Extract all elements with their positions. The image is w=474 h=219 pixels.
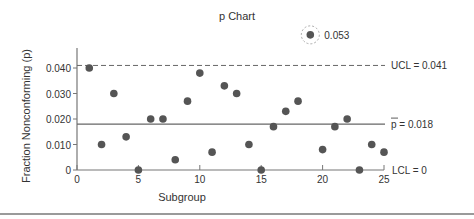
y-tick-label: 0.010 bbox=[46, 140, 71, 151]
y-axis-label: Fraction Nonconforming (p) bbox=[20, 49, 32, 183]
data-point bbox=[294, 97, 302, 105]
lcl-label: LCL = 0 bbox=[392, 165, 427, 176]
x-tick-label: 0 bbox=[74, 174, 80, 185]
data-point bbox=[135, 166, 143, 174]
data-point bbox=[356, 166, 364, 174]
data-point bbox=[319, 146, 327, 154]
data-point bbox=[343, 115, 351, 123]
bottom-divider bbox=[0, 213, 474, 215]
data-point bbox=[171, 156, 179, 164]
p-chart: p Chart 00.0100.0200.0300.0400510152025 … bbox=[0, 0, 474, 219]
axes: 00.0100.0200.0300.0400510152025 bbox=[46, 48, 390, 185]
x-tick-label: 5 bbox=[136, 174, 142, 185]
data-point bbox=[196, 69, 204, 77]
data-point bbox=[257, 166, 265, 174]
data-point bbox=[245, 141, 253, 149]
data-point bbox=[85, 64, 93, 72]
data-point bbox=[270, 123, 278, 131]
data-point bbox=[233, 90, 241, 98]
data-point bbox=[98, 141, 106, 149]
data-point bbox=[331, 123, 339, 131]
y-tick-label: 0.030 bbox=[46, 89, 71, 100]
ucl-label: UCL = 0.041 bbox=[391, 60, 447, 71]
data-point bbox=[221, 82, 229, 90]
x-tick-label: 20 bbox=[317, 174, 329, 185]
chart-title: p Chart bbox=[219, 10, 255, 22]
x-axis-label: Subgroup bbox=[158, 191, 206, 203]
data-point bbox=[147, 115, 155, 123]
data-point bbox=[184, 97, 192, 105]
data-point bbox=[159, 115, 167, 123]
data-point bbox=[208, 148, 216, 156]
x-tick-label: 25 bbox=[378, 174, 390, 185]
y-tick-label: 0.040 bbox=[46, 63, 71, 74]
data-points bbox=[85, 26, 387, 174]
data-point bbox=[307, 31, 315, 39]
data-point bbox=[110, 90, 118, 98]
data-point bbox=[368, 141, 376, 149]
x-tick-label: 10 bbox=[194, 174, 206, 185]
data-point bbox=[282, 108, 290, 116]
out-of-control-label: 0.053 bbox=[324, 30, 349, 41]
x-tick-label: 15 bbox=[256, 174, 268, 185]
pbar-label: p = 0.018 bbox=[391, 119, 433, 130]
data-point bbox=[122, 133, 130, 141]
data-point bbox=[380, 148, 388, 156]
y-tick-label: 0 bbox=[65, 165, 71, 176]
control-lines bbox=[77, 65, 385, 124]
y-tick-label: 0.020 bbox=[46, 114, 71, 125]
